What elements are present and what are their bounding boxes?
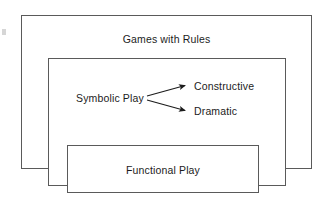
label-games-with-rules: Games with Rules <box>21 33 312 45</box>
diagram-canvas: Games with Rules Symbolic Play Construct… <box>0 0 327 207</box>
label-functional-play: Functional Play <box>67 164 259 176</box>
label-symbolic-play: Symbolic Play <box>76 92 144 104</box>
label-constructive: Constructive <box>194 80 254 92</box>
label-dramatic: Dramatic <box>194 105 237 117</box>
scan-artifact <box>2 29 6 35</box>
